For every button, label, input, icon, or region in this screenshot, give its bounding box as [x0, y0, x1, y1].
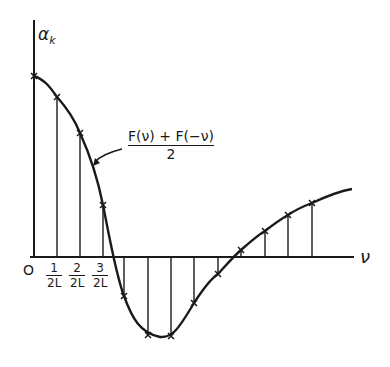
tick-numerator: 2	[72, 262, 82, 274]
curve-label-denominator: 2	[167, 146, 176, 162]
origin-label: O	[23, 262, 34, 278]
y-axis-label: αk	[38, 24, 56, 47]
diagram-canvas	[0, 0, 390, 367]
x-tick-2: 2 2L	[69, 262, 85, 289]
tick-numerator: 1	[49, 262, 59, 274]
y-axis-subscript: k	[49, 34, 55, 47]
y-axis-symbol: α	[38, 24, 49, 44]
sample-markers	[31, 73, 315, 339]
x-tick-1: 1 2L	[46, 262, 62, 289]
curve-label-numerator: F(ν) + F(−ν)	[128, 128, 214, 144]
x-tick-3: 3 2L	[92, 262, 108, 289]
tick-denominator: 2L	[46, 277, 62, 289]
tick-numerator: 3	[95, 262, 105, 274]
curve	[34, 76, 352, 337]
x-axis-label: ν	[360, 246, 370, 267]
label-leader-arrow	[95, 149, 122, 162]
curve-label: F(ν) + F(−ν) 2	[128, 128, 214, 162]
tick-denominator: 2L	[69, 277, 85, 289]
tick-denominator: 2L	[92, 277, 108, 289]
